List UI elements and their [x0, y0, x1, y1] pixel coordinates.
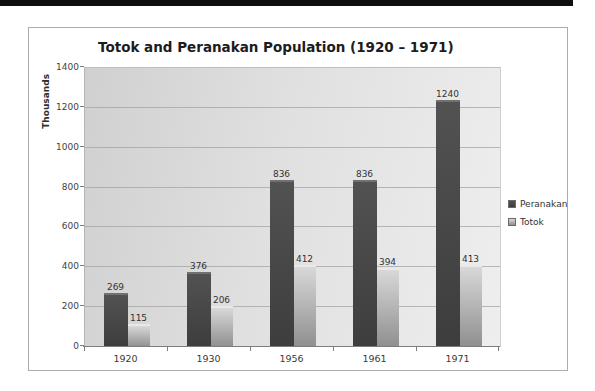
- y-tick-mark: [80, 146, 84, 147]
- x-tick-label: 1961: [333, 353, 416, 364]
- x-tick-mark: [84, 347, 85, 351]
- data-label: 376: [190, 261, 207, 271]
- y-tick-mark: [80, 186, 84, 187]
- y-tick-label: 400: [29, 261, 79, 271]
- x-tick-label: 1930: [167, 353, 250, 364]
- y-tick-label: 1200: [29, 102, 79, 112]
- y-tick-mark: [80, 265, 84, 266]
- bar-peranakan-1961: 836: [353, 180, 377, 347]
- data-label: 269: [107, 282, 124, 292]
- data-label: 412: [296, 254, 313, 264]
- bar-group-1920: 269115: [85, 68, 168, 347]
- chart-title: Totok and Peranakan Population (1920 – 1…: [98, 39, 454, 55]
- y-tick-label: 200: [29, 301, 79, 311]
- x-tick-mark: [416, 347, 417, 351]
- y-tick-label: 800: [29, 182, 79, 192]
- data-label: 413: [462, 254, 479, 264]
- y-tick-mark: [80, 305, 84, 306]
- y-axis-labels: 0200400600800100012001400: [29, 67, 79, 346]
- bar-group-1961: 836394: [334, 68, 417, 347]
- legend-item-totok: Totok: [508, 214, 567, 229]
- scan-artifact-top-bar: [0, 0, 573, 6]
- bar-group-1930: 376206: [168, 68, 251, 347]
- data-label: 206: [213, 295, 230, 305]
- data-label: 836: [356, 169, 373, 179]
- data-label: 394: [379, 257, 396, 267]
- legend-label: Peranakan: [520, 199, 567, 209]
- bar-peranakan-1956: 836: [270, 180, 294, 347]
- bar-totok-1961: 394: [377, 268, 399, 347]
- y-axis-ticks: [80, 67, 84, 346]
- y-tick-label: 1400: [29, 62, 79, 72]
- y-tick-mark: [80, 225, 84, 226]
- legend-item-peranakan: Peranakan: [508, 196, 567, 211]
- y-tick-label: 1000: [29, 142, 79, 152]
- legend-marker-icon: [508, 218, 516, 226]
- bar-totok-1971: 413: [460, 265, 482, 347]
- bar-totok-1920: 115: [128, 324, 150, 347]
- bar-peranakan-1971: 1240: [436, 100, 460, 347]
- plot-area: 2691153762068364128363941240413: [84, 67, 501, 347]
- y-tick-label: 600: [29, 221, 79, 231]
- legend-label: Totok: [520, 217, 544, 227]
- x-tick-mark: [250, 347, 251, 351]
- x-tick-mark: [167, 347, 168, 351]
- scanned-page: { "page": { "top_bar_color": "#0f0f0f" }…: [0, 0, 595, 391]
- legend: PeranakanTotok: [508, 196, 567, 232]
- data-label: 836: [273, 169, 290, 179]
- y-tick-mark: [80, 106, 84, 107]
- bar-group-1971: 1240413: [417, 68, 500, 347]
- chart-frame: Totok and Peranakan Population (1920 – 1…: [28, 27, 568, 371]
- x-axis-ticks: [84, 347, 499, 351]
- x-tick-mark: [498, 347, 499, 351]
- x-tick-label: 1971: [416, 353, 499, 364]
- bar-peranakan-1930: 376: [187, 272, 211, 347]
- x-axis-labels: 19201930195619611971: [84, 353, 499, 365]
- x-tick-label: 1920: [84, 353, 167, 364]
- bar-group-1956: 836412: [251, 68, 334, 347]
- bar-totok-1930: 206: [211, 306, 233, 347]
- y-tick-label: 0: [29, 341, 79, 351]
- data-label: 1240: [436, 89, 459, 99]
- x-tick-label: 1956: [250, 353, 333, 364]
- legend-marker-icon: [508, 200, 516, 208]
- bar-peranakan-1920: 269: [104, 293, 128, 347]
- y-tick-mark: [80, 66, 84, 67]
- x-tick-mark: [333, 347, 334, 351]
- data-label: 115: [130, 313, 147, 323]
- bar-totok-1956: 412: [294, 265, 316, 347]
